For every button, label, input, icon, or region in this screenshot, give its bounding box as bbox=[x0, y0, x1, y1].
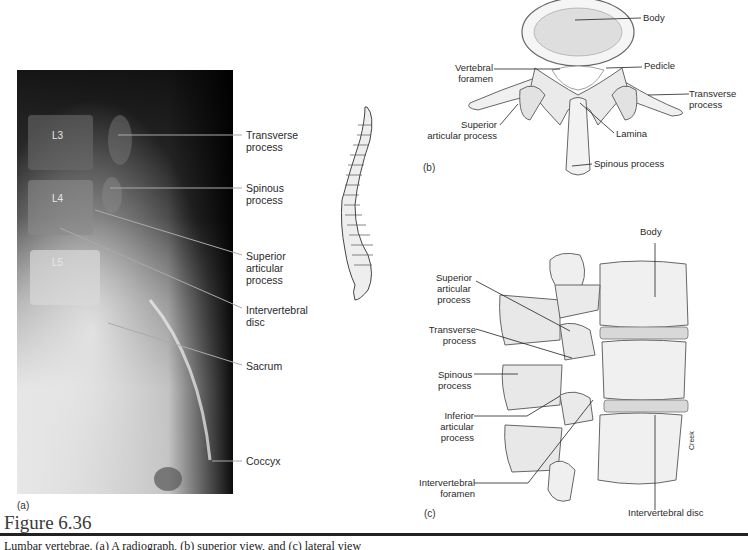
artist-signature: Creek bbox=[686, 431, 697, 450]
callout-intervertebral-disc-c: Intervertebral disc bbox=[628, 507, 704, 518]
callout-body-c: Body bbox=[640, 226, 662, 237]
callout-transverse-process-c: Transverse process bbox=[426, 324, 476, 346]
callout-inferior-articular-process: Inferior articular process bbox=[436, 410, 474, 443]
callout-intervertebral-foramen: Intervertebral foramen bbox=[415, 477, 475, 499]
figure-heading: Figure 6.36 bbox=[4, 512, 92, 534]
panel-letter-c: (c) bbox=[424, 508, 436, 519]
heading-rule bbox=[0, 533, 748, 536]
callout-superior-articular-process-c: Superior articular process bbox=[436, 272, 472, 305]
lateral-view-illustration bbox=[0, 0, 748, 550]
callout-spinous-process-c: Spinous process bbox=[438, 369, 472, 391]
figure-caption: Lumbar vertebrae. (a) A radiograph, (b) … bbox=[4, 540, 361, 550]
